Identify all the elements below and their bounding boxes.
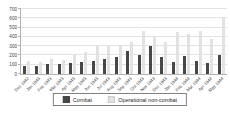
bar-combat	[195, 61, 198, 74]
bar-combat	[183, 56, 186, 74]
bar-group	[158, 9, 169, 74]
y-axis-label: 100	[1, 62, 17, 67]
bar-combat	[160, 57, 163, 74]
legend-swatch-icon	[63, 96, 70, 103]
bar-operational-non-combat	[210, 39, 213, 74]
bar-group	[193, 9, 204, 74]
bar-group	[124, 9, 135, 74]
bar-operational-non-combat	[130, 42, 133, 75]
bar-group	[32, 9, 43, 74]
bar-operational-non-combat	[96, 46, 99, 74]
bar-group	[181, 9, 192, 74]
y-axis-label: 600	[1, 16, 17, 21]
bar-group	[215, 9, 226, 74]
legend-label: Operational non-combat	[118, 97, 177, 103]
bar-combat	[69, 63, 72, 74]
y-axis-label: 400	[1, 34, 17, 39]
y-axis-label: 0	[1, 72, 17, 77]
bar-operational-non-combat	[176, 32, 179, 74]
bar-operational-non-combat	[187, 34, 190, 74]
y-axis-label: 300	[1, 44, 17, 49]
bar-operational-non-combat	[153, 36, 156, 74]
bar-group	[90, 9, 101, 74]
bar-operational-non-combat	[164, 42, 167, 74]
bar-combat	[138, 55, 141, 74]
bar-combat	[35, 66, 38, 74]
plot-area	[20, 9, 227, 75]
bar-operational-non-combat	[142, 31, 145, 74]
bar-combat	[103, 59, 106, 74]
bar-combat	[58, 64, 61, 74]
bar-operational-non-combat	[119, 45, 122, 74]
bar-combat	[172, 62, 175, 74]
bar-combat	[80, 62, 83, 74]
bar-combat	[92, 61, 95, 74]
bar-operational-non-combat	[39, 62, 42, 74]
y-axis-label: 700	[1, 7, 17, 12]
legend-swatch-icon	[108, 96, 115, 103]
bar-combat	[23, 66, 26, 74]
legend-item: Operational non-combat	[108, 96, 177, 103]
bar-group	[113, 9, 124, 74]
bar-group	[67, 9, 78, 74]
bar-group	[135, 9, 146, 74]
legend-item: Combat	[63, 96, 92, 103]
legend-label: Combat	[73, 97, 92, 103]
bar-group	[55, 9, 66, 74]
bar-operational-non-combat	[84, 52, 87, 74]
bar-combat	[206, 63, 209, 74]
bar-group	[101, 9, 112, 74]
bar-chart: 0100200300400500600700 Dec 1942Jan 1943F…	[0, 0, 230, 113]
bar-operational-non-combat	[199, 31, 202, 74]
y-axis-label: 500	[1, 25, 17, 30]
bar-group	[78, 9, 89, 74]
legend: CombatOperational non-combat	[53, 93, 187, 106]
bar-combat	[46, 64, 49, 74]
bar-group	[170, 9, 181, 74]
y-axis-label: 200	[1, 53, 17, 58]
bar-group	[44, 9, 55, 74]
bars-layer	[21, 9, 227, 74]
bar-operational-non-combat	[73, 55, 76, 75]
bar-combat	[218, 55, 221, 75]
bar-group	[147, 9, 158, 74]
bar-combat	[115, 57, 118, 74]
bar-operational-non-combat	[222, 17, 225, 74]
bar-operational-non-combat	[62, 60, 65, 74]
bar-group	[204, 9, 215, 74]
bar-combat	[149, 46, 152, 74]
bar-combat	[126, 51, 129, 74]
bar-operational-non-combat	[50, 59, 53, 74]
bar-operational-non-combat	[27, 61, 30, 74]
bar-operational-non-combat	[107, 45, 110, 74]
bar-group	[21, 9, 32, 74]
